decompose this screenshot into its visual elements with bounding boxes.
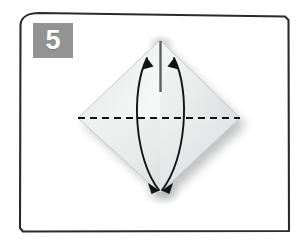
step-number-badge: 5	[33, 23, 73, 58]
origami-step-panel: 5	[0, 0, 306, 242]
paper-body	[78, 40, 240, 193]
step-number-label: 5	[45, 27, 60, 54]
